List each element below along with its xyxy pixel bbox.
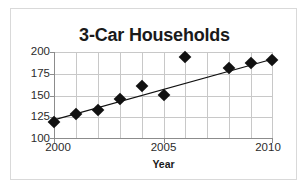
chart-frame: 3-Car Households 200 175 150 125 100	[10, 8, 297, 180]
y-tick-label: 150	[16, 89, 50, 101]
x-axis-title: Year	[54, 158, 273, 170]
x-tick-label: 2010	[255, 141, 281, 153]
y-axis-tick-labels: 200 175 150 125 100	[11, 52, 50, 139]
y-tick-label: 175	[16, 67, 50, 79]
plot-area	[54, 52, 273, 139]
x-tick-label: 2000	[45, 141, 71, 153]
y-tick-label: 200	[16, 45, 50, 57]
chart-title: 3-Car Households	[11, 25, 298, 46]
x-axis-tick-labels: 2000 2005 2010	[54, 141, 273, 159]
x-tick-label: 2005	[151, 141, 177, 153]
y-tick-label: 125	[16, 110, 50, 122]
